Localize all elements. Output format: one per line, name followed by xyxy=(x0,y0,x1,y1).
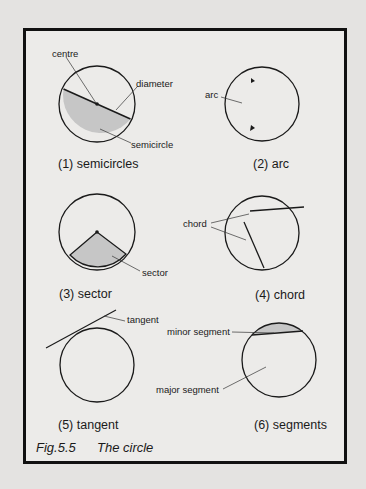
caption-tangent: (5) tangent xyxy=(58,418,118,432)
chord-diagram xyxy=(211,196,304,270)
label-tangent: tangent xyxy=(127,314,159,325)
label-semicircle: semicircle xyxy=(131,139,173,150)
arc-diagram xyxy=(221,67,299,141)
caption-arc: (2) arc xyxy=(253,157,289,171)
tangent-diagram xyxy=(46,310,134,402)
circle-diagrams xyxy=(0,0,366,489)
caption-chord: (4) chord xyxy=(255,288,305,302)
label-arc: arc xyxy=(205,89,218,100)
caption-semicircles: (1) semicircles xyxy=(58,157,139,171)
caption-segments: (6) segments xyxy=(254,418,327,432)
figure-title: The circle xyxy=(97,440,153,455)
figure-caption: Fig.5.5 The circle xyxy=(36,440,153,455)
label-major-segment: major segment xyxy=(156,384,219,395)
sector-diagram xyxy=(59,194,140,271)
semicircle-diagram xyxy=(59,57,137,143)
figure-label: Fig.5.5 xyxy=(36,440,76,455)
label-diameter: diameter xyxy=(136,78,173,89)
caption-sector: (3) sector xyxy=(59,287,112,301)
label-sector: sector xyxy=(142,267,168,278)
label-centre: centre xyxy=(52,48,78,59)
segments-diagram xyxy=(223,323,316,397)
label-chord: chord xyxy=(183,218,207,229)
label-minor-segment: minor segment xyxy=(167,326,230,337)
